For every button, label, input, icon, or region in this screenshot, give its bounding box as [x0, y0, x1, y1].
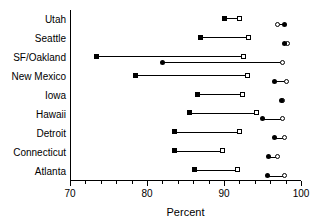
category-label-sf-oakland: SF/Oakland — [13, 52, 66, 63]
x-axis-title: Percent — [70, 206, 301, 218]
marker-ci-open — [282, 173, 287, 178]
marker-sq-filled — [94, 54, 99, 59]
connector-line — [201, 37, 249, 38]
x-tick-major-70 — [70, 181, 71, 186]
marker-sq-open — [246, 35, 251, 40]
x-tick-minor-72 — [85, 181, 86, 184]
marker-ci-filled — [260, 116, 265, 121]
marker-sq-open — [237, 16, 242, 21]
marker-ci-filled — [160, 60, 165, 65]
category-label-hawaii: Hawaii — [36, 108, 66, 119]
marker-sq-open — [240, 92, 245, 97]
marker-ci-open — [284, 79, 289, 84]
marker-ci-open — [280, 116, 285, 121]
connector-line — [162, 62, 282, 63]
marker-ci-filled — [272, 79, 277, 84]
marker-ci-filled — [282, 41, 287, 46]
x-tick-minor-86 — [193, 181, 194, 184]
marker-ci-filled — [265, 173, 270, 178]
x-tick-major-80 — [147, 181, 148, 186]
marker-ci-filled — [282, 22, 287, 27]
marker-sq-open — [245, 73, 250, 78]
x-tick-minor-94 — [255, 181, 256, 184]
marker-ci-filled — [279, 98, 284, 103]
x-tick-minor-92 — [239, 181, 240, 184]
category-label-utah: Utah — [45, 14, 66, 25]
x-tick-label-70: 70 — [64, 188, 75, 199]
y-axis-line — [70, 10, 71, 180]
marker-sq-open — [235, 167, 240, 172]
connector-line — [97, 56, 243, 57]
connector-line — [175, 151, 223, 152]
marker-ci-open — [275, 154, 280, 159]
marker-sq-filled — [198, 35, 203, 40]
marker-sq-filled — [222, 16, 227, 21]
marker-sq-filled — [172, 148, 177, 153]
x-tick-minor-98 — [286, 181, 287, 184]
x-tick-minor-74 — [101, 181, 102, 184]
x-tick-minor-76 — [116, 181, 117, 184]
category-label-connecticut: Connecticut — [13, 146, 66, 157]
category-label-seattle: Seattle — [35, 33, 66, 44]
x-tick-major-100 — [301, 181, 302, 186]
marker-sq-open — [220, 148, 225, 153]
x-tick-label-80: 80 — [141, 188, 152, 199]
connector-line — [135, 75, 247, 76]
x-tick-minor-78 — [132, 181, 133, 184]
marker-sq-filled — [195, 92, 200, 97]
marker-sq-open — [241, 54, 246, 59]
category-label-atlanta: Atlanta — [35, 165, 66, 176]
marker-sq-open — [237, 129, 242, 134]
marker-sq-filled — [133, 73, 138, 78]
marker-sq-filled — [192, 167, 197, 172]
marker-ci-open — [280, 60, 285, 65]
x-tick-label-90: 90 — [218, 188, 229, 199]
x-tick-label-100: 100 — [293, 188, 310, 199]
category-label-detroit: Detroit — [37, 127, 66, 138]
category-axis-labels: UtahSeattleSF/OaklandNew MexicoIowaHawai… — [0, 0, 66, 224]
marker-ci-open — [282, 135, 287, 140]
x-tick-minor-82 — [162, 181, 163, 184]
connector-line — [197, 94, 242, 95]
dot-plot-chart: UtahSeattleSF/OaklandNew MexicoIowaHawai… — [0, 0, 319, 224]
marker-sq-filled — [187, 110, 192, 115]
category-label-new-mexico: New Mexico — [12, 71, 66, 82]
category-label-iowa: Iowa — [45, 90, 66, 101]
connector-line — [195, 170, 237, 171]
x-tick-minor-96 — [270, 181, 271, 184]
marker-ci-filled — [272, 135, 277, 140]
x-tick-minor-84 — [178, 181, 179, 184]
x-tick-major-90 — [224, 181, 225, 186]
x-axis-line — [70, 180, 301, 181]
marker-sq-filled — [172, 129, 177, 134]
connector-line — [189, 113, 256, 114]
connector-line — [175, 132, 240, 133]
marker-sq-open — [254, 110, 259, 115]
marker-ci-filled — [266, 154, 271, 159]
x-tick-minor-88 — [209, 181, 210, 184]
plot-area: 708090100 Percent — [70, 10, 301, 180]
marker-ci-open — [275, 22, 280, 27]
